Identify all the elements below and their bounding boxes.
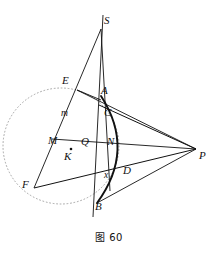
point-label-D: D (123, 165, 131, 176)
segment-E-A (77, 90, 101, 100)
geometry-canvas (0, 0, 218, 255)
point-label-F: F (22, 179, 29, 190)
point-label-S: S (104, 15, 110, 26)
point-label-N: N (107, 136, 114, 147)
point-label-x: x (104, 171, 108, 181)
geometry-figure: S E A C m M Q K N P F x D B 图 60 (0, 0, 218, 255)
dotted-circle (3, 88, 119, 204)
point-label-E: E (62, 75, 69, 86)
segment-E-P (77, 90, 196, 149)
point-label-B: B (95, 201, 102, 212)
point-label-C: C (104, 107, 111, 118)
point-label-Q: Q (81, 136, 89, 147)
segment-M-P (52, 139, 196, 149)
figure-caption: 图 60 (0, 229, 218, 244)
point-label-K: K (64, 151, 71, 162)
point-label-P: P (199, 150, 206, 161)
point-label-M: M (48, 135, 57, 146)
point-label-m: m (61, 109, 68, 119)
point-label-A: A (101, 85, 108, 96)
